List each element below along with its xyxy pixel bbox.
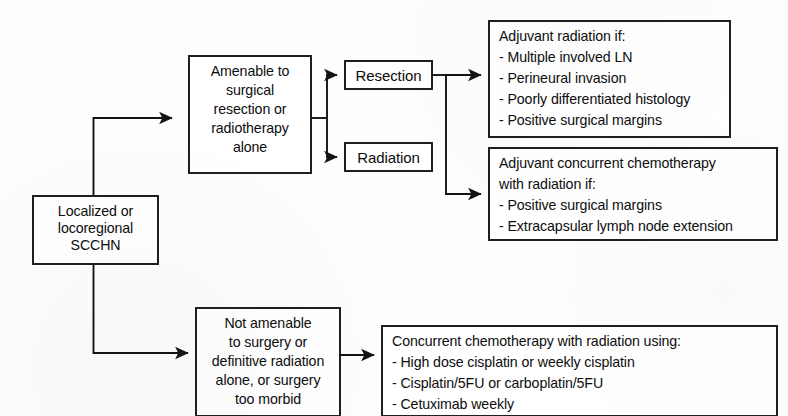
flowchart-canvas: Localized or locoregional SCCHN Amenable… (0, 0, 788, 416)
radiation-label: Radiation (357, 149, 419, 166)
node-concurrent-chemoradiation-regimens[interactable]: Concurrent chemotherapy with radiation u… (382, 326, 777, 416)
adjuvant-chemoradiation-line-1: Adjuvant concurrent chemotherapy (499, 155, 717, 171)
not-amenable-line-3: definitive radiation (212, 353, 324, 369)
amenable-line-2: surgical (226, 82, 274, 98)
not-amenable-line-5: too morbid (235, 391, 301, 407)
edge-amenable-to-radiation (327, 118, 337, 157)
not-amenable-line-4: alone, or surgery (216, 372, 322, 388)
resection-label: Resection (356, 67, 422, 84)
not-amenable-line-1: Not amenable (224, 315, 311, 331)
node-radiation[interactable]: Radiation (345, 143, 432, 171)
node-adjuvant-radiation-criteria[interactable]: Adjuvant radiation if: - Multiple involv… (489, 21, 730, 137)
adjuvant-chemoradiation-line-3: - Positive surgical margins (499, 197, 662, 213)
adjuvant-chemoradiation-line-2: with radiation if: (498, 176, 596, 192)
adjuvant-radiation-line-2: - Multiple involved LN (499, 49, 632, 65)
concurrent-chemoradiation-line-3: - Cisplatin/5FU or carboplatin/5FU (392, 375, 603, 391)
node-amenable-surgery-radiotherapy[interactable]: Amenable to surgical resection or radiot… (189, 56, 311, 173)
not-amenable-line-2: to surgery or (229, 334, 308, 350)
edge-root-to-not-amenable (94, 264, 189, 353)
localized-scchn-line-3: SCCHN (71, 237, 121, 253)
edge-resection-to-adjuvant-chemoradiation (446, 75, 481, 194)
node-not-amenable-surgery[interactable]: Not amenable to surgery or definitive ra… (196, 308, 340, 416)
concurrent-chemoradiation-line-2: - High dose cisplatin or weekly cisplati… (392, 354, 635, 370)
amenable-line-4: radiotherapy (211, 120, 290, 136)
concurrent-chemoradiation-line-4: - Cetuximab weekly (392, 396, 515, 412)
adjuvant-radiation-line-5: - Positive surgical margins (499, 112, 662, 128)
adjuvant-radiation-line-4: - Poorly differentiated histology (499, 91, 691, 107)
amenable-line-5: alone (233, 139, 267, 155)
localized-scchn-line-1: Localized or (58, 203, 134, 219)
diagram-page: Localized or locoregional SCCHN Amenable… (0, 0, 788, 416)
adjuvant-chemoradiation-line-4: - Extracapsular lymph node extension (499, 218, 733, 234)
node-resection[interactable]: Resection (345, 61, 432, 89)
node-adjuvant-concurrent-chemoradiation-criteria[interactable]: Adjuvant concurrent chemotherapy with ra… (489, 148, 777, 240)
adjuvant-radiation-line-1: Adjuvant radiation if: (499, 28, 625, 44)
localized-scchn-line-2: locoregional (58, 220, 133, 236)
node-localized-scchn[interactable]: Localized or locoregional SCCHN (33, 196, 158, 264)
amenable-line-1: Amenable to (211, 63, 290, 79)
amenable-line-3: resection or (214, 101, 287, 117)
adjuvant-radiation-line-3: - Perineural invasion (499, 70, 626, 86)
edge-amenable-to-resection (327, 75, 337, 118)
concurrent-chemoradiation-line-1: Concurrent chemotherapy with radiation u… (392, 333, 681, 349)
edge-root-to-amenable (94, 118, 173, 196)
